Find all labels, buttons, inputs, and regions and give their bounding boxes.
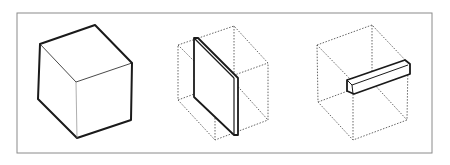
vertical-slab [194, 38, 238, 135]
cube-with-slab [178, 26, 268, 140]
cube-with-bar [317, 25, 410, 140]
figure [0, 0, 450, 165]
solid-cube [38, 25, 132, 138]
diagram-canvas [0, 0, 450, 165]
